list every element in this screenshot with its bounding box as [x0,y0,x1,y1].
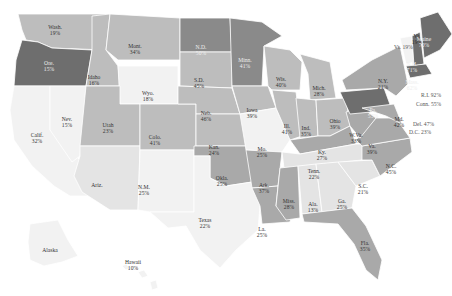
state-label-tn: Tenn. 22% [308,168,321,181]
state-label-wi: Wis. 40% [276,76,286,89]
state-label-me: Maine 70% [417,36,431,49]
state-label-pa: Pa. 53% [368,107,378,120]
state-label-wy: Wyo. 18% [142,90,154,103]
state-label-tx: Texas 22% [199,217,212,230]
state-label-nv: Nev. 15% [62,116,72,129]
state-label-wv: W.Va. 33% [349,132,362,145]
state-label-la: La. 25% [257,226,267,239]
state-label-sc: S.C. 21% [358,183,368,196]
state-label-mt: Mont. 34% [128,43,142,56]
state-label-mi: Mich. 28% [312,85,325,98]
callout-label-vt-out: Vt. 19% [394,44,413,50]
state-label-ga: Ga. 25% [337,198,347,211]
state-label-co: Colo. 41% [149,134,161,147]
state-label-oh: Ohio 39% [329,118,340,131]
state-label-ar: Ark. 37% [259,182,269,195]
state-label-ma: Mass. 62% [405,79,418,92]
state-label-wa: Wash. 19% [48,24,62,37]
state-label-or: Ore. 15% [44,60,54,73]
callout-label-de-out: Del. 47% [413,121,434,127]
state-label-in: Ind. 35% [301,125,311,138]
state-label-fl: Fla. 35% [360,240,370,253]
state-label-ia: Iowa 39% [246,107,257,120]
state-label-ca: Calif. 32% [31,132,44,145]
state-label-ut: Utah 23% [103,122,114,135]
state-label-ak: Alaska [42,247,58,253]
state-ny[interactable] [342,46,408,96]
callout-label-dc-out: D.C. 23% [409,129,431,135]
state-label-ky: Ky. 27% [317,149,327,162]
state-label-va: Va. 39% [367,143,377,156]
callout-label-ri-out: R.I. 92% [421,92,441,98]
state-label-sd: S.D. 45% [194,77,204,90]
state-label-al: Ala. 13% [308,201,318,214]
state-ak[interactable] [28,220,78,266]
state-label-mn: Minn. 41% [238,57,252,70]
state-label-ms: Miss. 28% [283,198,295,211]
state-label-ne: Neb. 46% [201,110,212,123]
state-az[interactable] [74,146,140,210]
callout-label-ct-out: Conn. 55% [416,101,441,107]
state-label-nh: N.H. 71% [407,61,418,74]
state-label-ny: N.Y. 21% [378,78,388,91]
state-label-hi: Hawaii 10% [125,259,141,272]
state-label-nm: N.M. 25% [138,184,150,197]
state-label-ks: Kan. 24% [209,144,220,157]
state-label-md: Md. 42% [394,116,404,129]
state-label-nd: N.D. 50% [196,44,207,57]
state-sd[interactable] [180,52,232,88]
state-label-ok: Okla. 25% [216,175,228,188]
state-nm[interactable] [138,150,194,212]
state-label-nc: N.C. 45% [386,163,397,176]
state-mt[interactable] [106,14,180,60]
state-label-il: Ill. 41% [282,123,292,136]
state-label-mo: Mo. 25% [257,146,267,159]
state-label-az: Ariz. [91,182,102,188]
state-label-id: Idaho 16% [88,74,101,87]
us-choropleth-map [0,0,452,296]
